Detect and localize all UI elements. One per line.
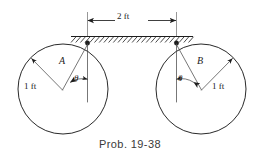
body-b-angle-label: θ	[178, 74, 182, 83]
figure-drawing	[0, 0, 260, 158]
body-b-cord-line	[177, 45, 202, 91]
problem-figure: 2 ft A B 1 ft 1 ft θ θ Prob. 19-38	[0, 0, 260, 158]
body-b-radius-label: 1 ft	[212, 82, 224, 91]
body-a-cord-line	[63, 45, 88, 91]
figure-caption: Prob. 19-38	[0, 138, 260, 150]
dimension-2ft	[88, 12, 177, 36]
body-a-radius-label: 1 ft	[24, 82, 36, 91]
dimension-label-2ft: 2 ft	[117, 12, 129, 21]
body-a-label: A	[59, 56, 65, 66]
body-a-angle-label: θ	[74, 74, 78, 83]
body-b-label: B	[197, 56, 203, 66]
